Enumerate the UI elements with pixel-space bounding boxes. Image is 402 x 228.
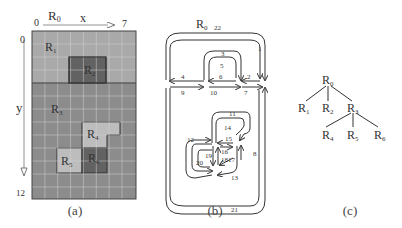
svg-text:9: 9 — [181, 89, 185, 97]
graph-root-number: 22 — [214, 24, 222, 32]
panel-a-region-grid: 0 x 7 R0 0 y 12 R1 R2 R3 R4 R5 R6 (a) — [0, 0, 150, 228]
caption-a: (a) — [60, 203, 90, 219]
caption-b: (b) — [200, 203, 230, 219]
svg-text:5: 5 — [220, 62, 224, 70]
svg-text:3: 3 — [221, 50, 225, 58]
region-grid-figure: 0 x 7 R0 0 y 12 R1 R2 R3 R4 R5 R6 — [0, 0, 150, 228]
svg-text:16: 16 — [221, 148, 229, 156]
y-axis-end: 12 — [16, 188, 25, 198]
svg-text:20: 20 — [196, 159, 204, 167]
tree-node-r1: R1 — [298, 101, 310, 116]
root-region-label: R0 — [48, 8, 61, 24]
region-tree-figure: R0 R1 R2 R3 R4 R5 R6 — [280, 0, 402, 228]
caption-c: (c) — [335, 203, 365, 219]
x-axis-label: x — [80, 11, 86, 25]
tree-node-r5: R5 — [347, 128, 359, 143]
graph-root-label: R0 — [196, 17, 208, 32]
svg-text:18: 18 — [221, 156, 229, 164]
svg-text:1: 1 — [258, 45, 262, 53]
svg-text:14: 14 — [224, 124, 232, 132]
y-axis-label: y — [16, 100, 23, 115]
panel-b-boundary-graph: 1 2 3 4 5 6 7 8 9 10 11 12 13 14 15 16 1… — [150, 0, 280, 228]
x-axis-start: 0 — [34, 17, 39, 28]
y-axis-start: 0 — [20, 34, 25, 45]
svg-text:10: 10 — [210, 89, 218, 97]
tree-node-r0: R0 — [322, 73, 334, 88]
boundary-graph-figure: 1 2 3 4 5 6 7 8 9 10 11 12 13 14 15 16 1… — [150, 0, 280, 228]
svg-text:8: 8 — [253, 150, 257, 158]
tree-node-r4: R4 — [322, 128, 334, 143]
svg-text:17: 17 — [228, 156, 236, 164]
svg-text:15: 15 — [225, 135, 233, 143]
panel-c-region-tree: R0 R1 R2 R3 R4 R5 R6 (c) — [280, 0, 402, 228]
svg-text:4: 4 — [181, 73, 185, 81]
tree-node-r6: R6 — [374, 128, 386, 143]
x-axis-end: 7 — [122, 18, 127, 29]
svg-text:7: 7 — [244, 89, 248, 97]
svg-text:12: 12 — [187, 136, 195, 144]
svg-text:19: 19 — [205, 152, 213, 160]
svg-text:6: 6 — [219, 73, 223, 81]
tree-node-r2: R2 — [322, 101, 334, 116]
svg-text:21: 21 — [231, 206, 239, 214]
svg-text:11: 11 — [229, 110, 236, 118]
svg-text:2: 2 — [247, 73, 251, 81]
tree-node-r3: R3 — [347, 101, 359, 116]
svg-text:13: 13 — [231, 174, 239, 182]
